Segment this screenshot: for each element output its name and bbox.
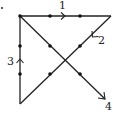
dot-7: [18, 72, 22, 76]
dot-5: [48, 44, 52, 48]
dot-4: [18, 44, 22, 48]
label-2: 2: [98, 34, 105, 47]
nine-dot-diagram: 1 2 3 4: [0, 0, 113, 114]
label-4: 4: [105, 100, 112, 113]
dot-2: [48, 14, 52, 18]
stray-mark: [1, 7, 3, 9]
dot-8: [48, 72, 52, 76]
dot-3: [78, 14, 82, 18]
segment-4: [20, 16, 105, 99]
dot-6: [78, 44, 82, 48]
label-3: 3: [7, 55, 14, 68]
label-1: 1: [59, 0, 66, 12]
dot-1: [18, 14, 22, 18]
dot-9: [78, 72, 82, 76]
